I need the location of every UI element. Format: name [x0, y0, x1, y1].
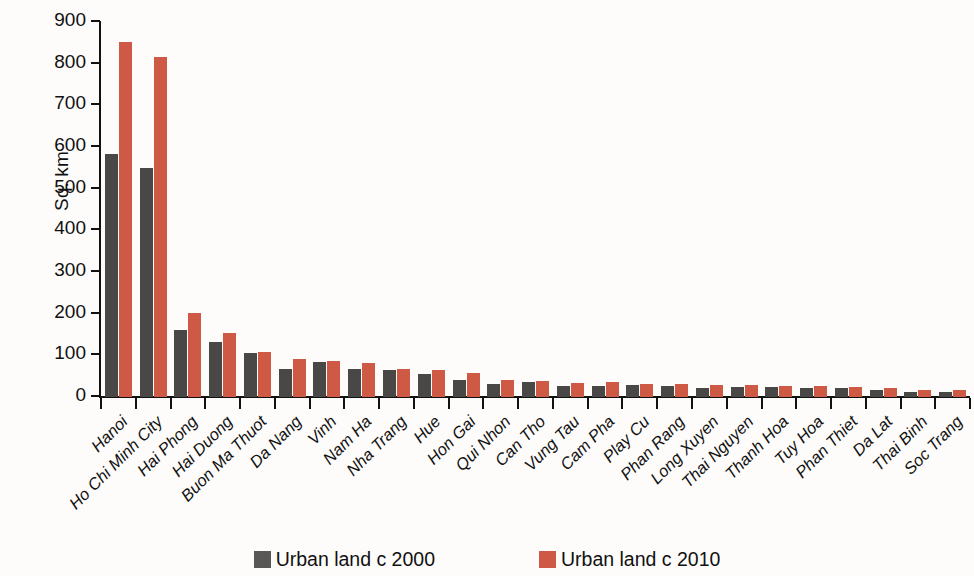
- bar-group: [344, 21, 379, 397]
- y-axis-tick-label: 300: [54, 259, 86, 281]
- plot-area: [101, 21, 970, 397]
- bar: [953, 390, 966, 397]
- y-axis-tick-label: 0: [75, 384, 86, 406]
- bar-group: [692, 21, 727, 397]
- x-axis-tick-mark: [831, 398, 866, 410]
- legend-label: Urban land c 2000: [276, 548, 435, 571]
- x-axis-labels: HanoiHo Chi Minh CityHai PhongHai DuongB…: [101, 410, 970, 535]
- bar-group: [935, 21, 970, 397]
- bar: [800, 388, 813, 397]
- x-axis-tick-mark: [518, 398, 553, 410]
- bar-group: [622, 21, 657, 397]
- x-axis-tick-mark: [553, 398, 588, 410]
- y-axis-tick-label: 900: [54, 9, 86, 31]
- bar: [432, 370, 445, 397]
- bar: [606, 382, 619, 397]
- x-axis-label-cell: Vinh: [310, 410, 345, 535]
- bar-group: [796, 21, 831, 397]
- bar: [557, 386, 570, 397]
- bar-group: [449, 21, 484, 397]
- bar: [362, 363, 375, 397]
- bar-group: [310, 21, 345, 397]
- bar: [731, 387, 744, 397]
- legend-swatch-2010: [539, 551, 556, 568]
- x-axis-tick-mark: [483, 398, 518, 410]
- x-axis-label-cell: Da Nang: [275, 410, 310, 535]
- bar-group: [275, 21, 310, 397]
- x-axis-tick-mark: [240, 398, 275, 410]
- bar: [327, 361, 340, 397]
- x-axis-label-cell: Qui Nhon: [483, 410, 518, 535]
- bar: [154, 57, 167, 397]
- bar: [174, 330, 187, 398]
- bar: [870, 390, 883, 397]
- x-axis-tick-mark: [762, 398, 797, 410]
- bar: [904, 392, 917, 397]
- bar-group: [205, 21, 240, 397]
- legend-entry: Urban land c 2000: [254, 548, 435, 571]
- x-axis-tick-mark: [796, 398, 831, 410]
- bar: [765, 387, 778, 397]
- x-axis-tick-mark: [136, 398, 171, 410]
- y-axis-tick-label: 400: [54, 217, 86, 239]
- bar: [348, 369, 361, 397]
- x-axis-tick-mark: [727, 398, 762, 410]
- bar: [501, 380, 514, 397]
- bar: [835, 388, 848, 397]
- bar: [536, 381, 549, 397]
- bar: [487, 384, 500, 397]
- bar: [918, 390, 931, 398]
- x-axis-tick-mark: [414, 398, 449, 410]
- bar: [939, 392, 952, 397]
- bar-group: [831, 21, 866, 397]
- bar: [383, 370, 396, 398]
- x-axis-label-cell: Cam Pha: [588, 410, 623, 535]
- x-axis-label-cell: Nha Trang: [379, 410, 414, 535]
- bar: [313, 362, 326, 397]
- bar-group: [553, 21, 588, 397]
- x-axis-label-cell: Phan Thiet: [831, 410, 866, 535]
- bar: [140, 168, 153, 397]
- x-axis-tick-mark: [866, 398, 901, 410]
- chart-legend: Urban land c 2000Urban land c 2010: [0, 548, 974, 571]
- legend-entry: Urban land c 2010: [539, 548, 720, 571]
- bar: [710, 385, 723, 397]
- bar: [849, 387, 862, 397]
- y-axis-tick-label: 700: [54, 92, 86, 114]
- bar: [626, 385, 639, 397]
- bar-group: [762, 21, 797, 397]
- x-axis-tick-mark: [657, 398, 692, 410]
- bar-group: [136, 21, 171, 397]
- x-axis-tick-mark: [310, 398, 345, 410]
- bar: [188, 313, 201, 397]
- bar: [418, 374, 431, 397]
- bar: [223, 333, 236, 397]
- bar: [244, 353, 257, 397]
- x-axis-tick-mark: [171, 398, 206, 410]
- legend-label: Urban land c 2010: [561, 548, 720, 571]
- bar-group: [101, 21, 136, 397]
- bar: [661, 386, 674, 397]
- x-axis-label-cell: Hue: [414, 410, 449, 535]
- bar: [397, 369, 410, 397]
- y-axis-tick-label: 200: [54, 301, 86, 323]
- bar: [293, 359, 306, 397]
- legend-swatch-2000: [254, 551, 271, 568]
- bar: [571, 383, 584, 397]
- x-axis-label-cell: Buon Ma Thuot: [240, 410, 275, 535]
- bar: [592, 386, 605, 397]
- bar-group: [518, 21, 553, 397]
- bar-group: [588, 21, 623, 397]
- bar-group: [657, 21, 692, 397]
- x-axis-ticks: [101, 398, 970, 410]
- bar: [696, 388, 709, 397]
- bar: [675, 384, 688, 397]
- x-axis-tick-mark: [692, 398, 727, 410]
- bar: [522, 382, 535, 397]
- bar-group: [379, 21, 414, 397]
- bar: [209, 342, 222, 397]
- bar-group: [483, 21, 518, 397]
- bar-chart: Sq. km 0100200300400500600700800900 Hano…: [0, 0, 974, 576]
- bar-group: [866, 21, 901, 397]
- x-axis-tick-mark: [588, 398, 623, 410]
